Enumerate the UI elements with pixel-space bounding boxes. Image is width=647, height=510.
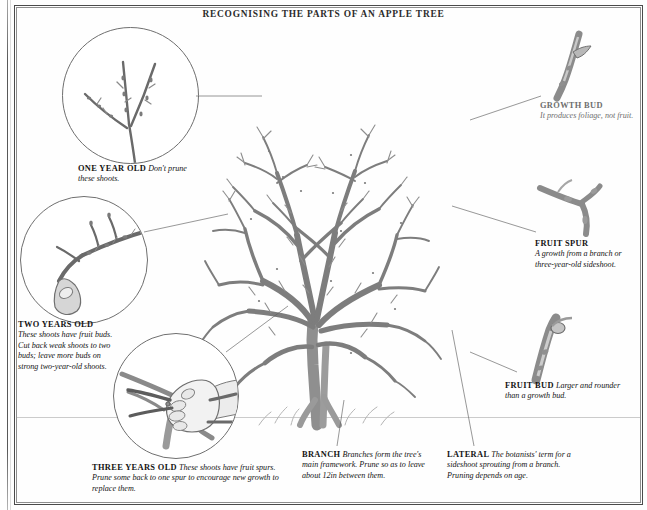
caption-label-two-years-old: TWO YEARS OLD (18, 320, 93, 329)
inset-growth-bud (545, 34, 597, 102)
caption-label-three-years-old: THREE YEARS OLD (92, 463, 177, 472)
caption-label-one-year-old: ONE YEAR OLD (78, 164, 146, 173)
page-gutter-rule-inner (10, 0, 11, 510)
caption-branch: BRANCH Branches form the tree's main fra… (302, 450, 432, 481)
inset-fruit-bud (518, 318, 574, 384)
caption-label-branch: BRANCH (302, 450, 340, 459)
vignette-one-year-old (62, 27, 199, 164)
main-tree-illustration (205, 95, 440, 429)
caption-growth-bud: GROWTH BUD It produces foliage, not frui… (540, 101, 640, 122)
caption-label-fruit-bud: FRUIT BUD (505, 381, 554, 390)
leader-fruit-spur (452, 206, 536, 232)
caption-fruit-bud: FRUIT BUD Larger and rounder than a grow… (505, 381, 627, 402)
caption-text-growth-bud: It produces foliage, not fruit. (540, 111, 633, 120)
illustration-page: RECOGNISING THE PARTS OF AN APPLE TREE (0, 0, 647, 510)
caption-text-fruit-spur: A growth from a branch or three-year-old… (535, 249, 622, 268)
caption-label-fruit-spur: FRUIT SPUR (535, 239, 588, 248)
page-gutter-rule (7, 0, 8, 510)
vignette-three-years-old (113, 333, 239, 459)
caption-two-years-old: TWO YEARS OLD These shoots have fruit bu… (18, 320, 114, 372)
caption-text-two-years-old: These shoots have fruit buds. Cut back w… (18, 330, 112, 370)
caption-label-growth-bud: GROWTH BUD (540, 101, 603, 110)
caption-fruit-spur: FRUIT SPUR A growth from a branch or thr… (535, 239, 637, 270)
caption-lateral: LATERAL The botanists' term for a sidesh… (447, 450, 575, 481)
page-title: RECOGNISING THE PARTS OF AN APPLE TREE (0, 9, 647, 19)
inset-fruit-spur (538, 178, 600, 242)
caption-one-year-old: ONE YEAR OLD Don't prune these shoots. (78, 164, 198, 185)
leader-lateral (452, 330, 474, 446)
leader-fruit-bud (470, 352, 517, 372)
caption-label-lateral: LATERAL (447, 450, 489, 459)
leader-growth-bud (470, 96, 541, 120)
caption-three-years-old: THREE YEARS OLD These shoots have fruit … (92, 463, 292, 494)
vignette-two-years-old (20, 196, 148, 324)
